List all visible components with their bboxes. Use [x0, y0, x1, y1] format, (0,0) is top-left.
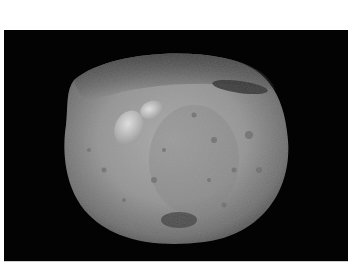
- photo-frame: [4, 30, 348, 261]
- asteroid-image: [4, 30, 348, 261]
